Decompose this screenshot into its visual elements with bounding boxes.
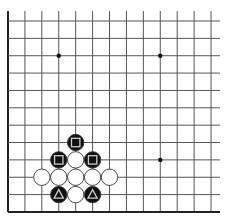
stone-disc	[67, 134, 83, 150]
black-stone	[51, 186, 67, 202]
black-stone	[67, 134, 83, 150]
stone-disc	[34, 169, 50, 185]
stone-disc	[101, 169, 117, 185]
white-stone	[34, 169, 50, 185]
stone-disc	[51, 169, 67, 185]
white-stone	[67, 152, 83, 168]
black-stone	[84, 186, 100, 202]
black-stone	[84, 152, 100, 168]
stone-disc	[67, 169, 83, 185]
black-stone	[51, 152, 67, 168]
white-stone	[101, 169, 117, 185]
stone-disc	[84, 152, 100, 168]
white-stone	[84, 169, 100, 185]
go-board	[0, 0, 229, 223]
white-stone	[51, 169, 67, 185]
stone-disc	[84, 169, 100, 185]
stone-disc	[67, 152, 83, 168]
stone-disc	[67, 186, 83, 202]
star-point	[158, 54, 162, 58]
star-point	[57, 54, 61, 58]
star-point	[158, 158, 162, 162]
white-stone	[67, 169, 83, 185]
stone-disc	[51, 152, 67, 168]
white-stone	[67, 186, 83, 202]
